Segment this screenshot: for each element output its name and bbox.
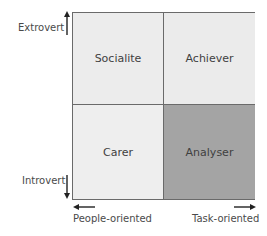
- x-axis-left-label: People-oriented: [73, 213, 152, 224]
- quadrant-socialite: Socialite: [73, 13, 164, 105]
- quadrant-label: Socialite: [95, 52, 142, 65]
- quadrant-label: Achiever: [186, 52, 234, 65]
- quadrant-grid: Socialite Achiever Carer Analyser: [72, 12, 255, 200]
- quadrant-analyser: Analyser: [164, 105, 255, 199]
- arrow-left-icon: [73, 203, 95, 211]
- y-axis-top-label: Extrovert: [18, 22, 64, 33]
- quadrant-achiever: Achiever: [164, 13, 255, 105]
- quadrant-label: Analyser: [186, 146, 234, 159]
- x-axis-right-label: Task-oriented: [192, 213, 259, 224]
- quadrant-carer: Carer: [73, 105, 164, 199]
- arrow-down-icon: [63, 175, 71, 199]
- arrow-up-icon: [63, 11, 71, 35]
- quadrant-label: Carer: [103, 146, 133, 159]
- y-axis-bottom-label: Introvert: [22, 175, 65, 186]
- arrow-right-icon: [234, 203, 256, 211]
